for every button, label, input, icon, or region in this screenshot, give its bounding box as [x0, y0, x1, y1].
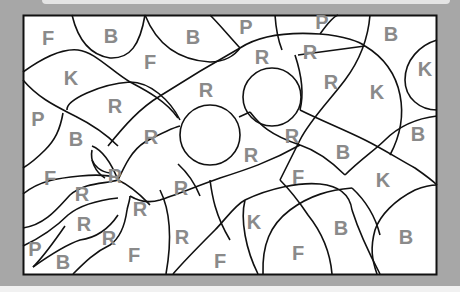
region-letter[interactable]: R: [75, 183, 90, 205]
region-letter[interactable]: K: [64, 67, 79, 89]
region-letter[interactable]: R: [77, 213, 92, 235]
region-letter[interactable]: R: [244, 144, 259, 166]
region-letter[interactable]: P: [315, 11, 328, 33]
region-letter[interactable]: K: [376, 169, 391, 191]
region-letter[interactable]: R: [303, 41, 318, 63]
region-letter[interactable]: B: [186, 26, 200, 48]
region-letter[interactable]: P: [239, 16, 252, 38]
coloring-board[interactable]: FBBPPBFKRRKRRKRPBRRBRBFRFKRRRRKRRBBPBFFF: [0, 0, 460, 292]
region-letter[interactable]: R: [255, 46, 270, 68]
region-letter[interactable]: B: [411, 123, 425, 145]
region-letter[interactable]: R: [174, 177, 189, 199]
region-letter[interactable]: B: [104, 25, 118, 47]
region-letter[interactable]: B: [334, 217, 348, 239]
region-letter[interactable]: R: [285, 125, 300, 147]
region-letter[interactable]: F: [44, 167, 56, 189]
region-letter[interactable]: F: [214, 250, 226, 272]
region-letter[interactable]: R: [144, 126, 159, 148]
region-letter[interactable]: P: [31, 108, 44, 130]
region-letter[interactable]: B: [399, 226, 413, 248]
region-letter[interactable]: R: [133, 198, 148, 220]
region-letter[interactable]: P: [28, 238, 41, 260]
region-letter[interactable]: R: [102, 227, 117, 249]
region-letter[interactable]: B: [336, 141, 350, 163]
region-letter[interactable]: B: [384, 23, 398, 45]
region-letter[interactable]: K: [418, 58, 433, 80]
region-letter[interactable]: K: [247, 211, 262, 233]
region-letter[interactable]: F: [292, 166, 304, 188]
region-letter[interactable]: F: [292, 242, 304, 264]
region-letter[interactable]: F: [42, 27, 54, 49]
region-letter[interactable]: R: [175, 226, 190, 248]
region-letter[interactable]: F: [128, 244, 140, 266]
region-letter[interactable]: F: [144, 51, 156, 73]
region-letter[interactable]: R: [108, 165, 123, 187]
region-letter[interactable]: R: [199, 79, 214, 101]
region-letter[interactable]: B: [56, 251, 70, 273]
region-letter[interactable]: R: [324, 71, 339, 93]
region-letter[interactable]: B: [69, 128, 83, 150]
region-letter[interactable]: K: [370, 81, 385, 103]
region-letter[interactable]: R: [108, 95, 123, 117]
